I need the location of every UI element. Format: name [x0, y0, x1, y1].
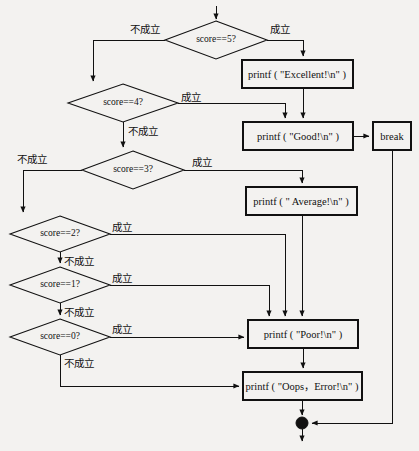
end-connector-dot	[296, 417, 308, 429]
decision-score-0-label: score==0?	[40, 332, 80, 342]
decision-score-5-label: score==5?	[196, 35, 236, 45]
process-break-label: break	[380, 132, 403, 143]
edge-label-d1-true: 成立	[112, 273, 132, 284]
edge-label-d2-true: 成立	[112, 222, 132, 233]
process-average-label: printf ( " Average!\n" )	[253, 197, 348, 208]
edge-label-d3-true: 成立	[192, 157, 212, 168]
process-oops-label: printf ( "Oops，Error!\n" )	[246, 382, 359, 393]
edge-label-d0-false: 不成立	[64, 358, 94, 369]
decision-score-4-label: score==4?	[103, 98, 143, 108]
edge-d5-false	[93, 40, 165, 81]
edge-label-d1-false: 不成立	[64, 307, 94, 318]
process-poor-label: printf ( "Poor!\n" )	[264, 330, 342, 341]
edge-label-d5-true: 成立	[270, 24, 290, 35]
flowchart-canvas: score==5? score==4? score==3? score==2? …	[0, 0, 419, 451]
decision-score-2-label: score==2?	[40, 229, 80, 239]
edge-label-d4-true: 成立	[181, 92, 201, 103]
edge-label-d5-false: 不成立	[130, 24, 160, 35]
edge-label-d0-true: 成立	[112, 324, 132, 335]
edge-d3-false	[23, 170, 82, 212]
edge-d1-true	[110, 285, 269, 316]
process-excellent-label: printf ( "Excellent!\n" )	[248, 70, 346, 81]
edge-label-d3-false: 不成立	[17, 154, 47, 165]
edge-d4-true	[178, 103, 285, 118]
edge-d5-true	[267, 40, 303, 56]
decision-score-3-label: score==3?	[113, 165, 153, 175]
edge-d2-true	[110, 234, 285, 316]
process-shapes	[242, 60, 411, 400]
decision-score-1-label: score==1?	[40, 280, 80, 290]
decision-shapes	[10, 21, 267, 355]
edge-label-d2-false: 不成立	[64, 256, 94, 267]
process-good-label: printf ( "Good!\n" )	[257, 132, 339, 143]
edge-d3-true	[184, 170, 302, 183]
edge-label-d4-false: 不成立	[128, 126, 158, 137]
